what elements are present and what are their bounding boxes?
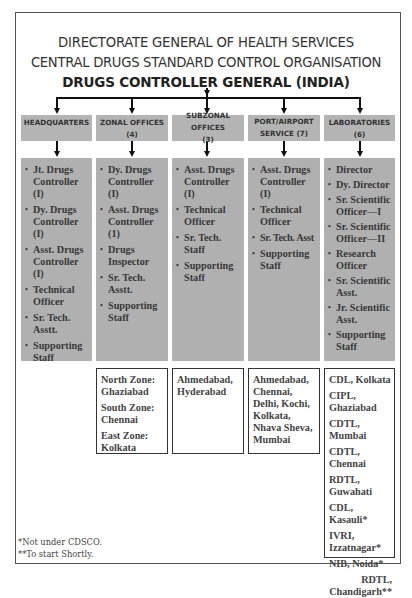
arrow-down-icon [357,108,363,114]
staff-item: Asst. Drugs Controller (I) [176,164,241,200]
staff-item: Supporting Staff [25,340,89,364]
location-city: Chennai, [253,386,315,398]
staff-item: Technical Officer [25,284,89,308]
node-label: HEADQUARTERS [24,117,89,129]
location-label: South Zone: [101,402,163,414]
locations-subzonal: Ahmedabad, Hyderabad [172,368,244,454]
staff-list-port: Asst. Drugs Controller (I) Technical Off… [248,158,320,361]
arrow-down-icon [281,151,287,157]
node-label: ZONAL OFFICES (4) [98,117,166,141]
staff-item: Sr. Scientific Officer—II [328,221,392,245]
locations-laboratories: CDL, Kolkata CIPL, Ghaziabad CDTL, Mumba… [324,368,395,558]
arrow-down-icon [281,108,287,114]
staff-list-laboratories: Director Dy. Director Sr. Scientific Off… [324,158,395,361]
staff-item: Sr. Tech. Asstt. [100,272,165,296]
node-label: PORT/AIRPORT SERVICE (7) [254,116,313,140]
staff-item: Supporting Staff [328,329,392,353]
staff-item: Asst. Drugs Controller (I) [25,244,89,280]
arrow-down-icon [54,108,60,114]
arrow-down-icon [204,151,210,157]
arrow-down-icon [204,90,210,96]
lab-location: CDL, Kasauli* [329,502,392,526]
lab-location: CIPL, Ghaziabad [329,390,392,414]
arrow-down-icon [357,151,363,157]
node-port-airport-service: PORT/AIRPORT SERVICE (7) [248,115,320,141]
lab-location: CDTL, Chennai [329,446,392,470]
staff-item: Supporting Staff [100,300,165,324]
arrow-down-icon [129,151,135,157]
locations-port: Ahmedabad, Chennai, Delhi, Kochi, Kolkat… [248,368,320,454]
arrow-down-icon [54,151,60,157]
location-city: Ghaziabad [101,386,163,398]
staff-item: Technical Officer [176,204,241,228]
location-city: Hyderabad [177,386,239,398]
staff-item: Sr. Tech. Asstt. [25,312,89,336]
staff-item: Asst. Drugs Controller (I) [252,164,317,200]
locations-zonal: North Zone: Ghaziabad South Zone: Chenna… [96,368,168,454]
node-label: LABORATORIES (6) [326,117,393,141]
lab-location: RDTL, Guwahati [329,474,392,498]
staff-item: Director [328,164,392,176]
staff-item: Technical Officer [252,204,317,228]
node-subzonal-offices: SUBZONAL OFFICES (3) [172,115,244,141]
staff-list-headquarters: Jt. Drugs Controller (I) Dy. Drugs Contr… [21,158,92,361]
location-city: Chennai [101,414,163,426]
connector-horizontal [56,97,360,99]
location-label: North Zone: [101,374,163,386]
staff-item: Sr. Scientific Asst. [328,275,392,299]
staff-item: Research Officer [328,248,392,272]
footnote-not-under-cdsco: *Not under CDSCO. [18,537,102,547]
lab-location: CDL, Kolkata [329,374,392,386]
staff-item: Supporting Staff [176,260,241,284]
location-city: Delhi, Kochi, [253,398,315,410]
staff-item: Sr. Tech. Asst [252,232,317,244]
staff-item: Sr. Tech. Staff [176,232,241,256]
staff-item: Jt. Drugs Controller (I) [25,164,89,200]
node-label: SUBZONAL OFFICES (3) [184,110,232,146]
lab-location: RDTL, Chandigarh** [329,574,392,598]
title-cdsco: CENTRAL DRUGS STANDARD CONTROL ORGANISAT… [0,55,412,70]
title-dghs: DIRECTORATE GENERAL OF HEALTH SERVICES [0,35,412,50]
node-zonal-offices: ZONAL OFFICES (4) [96,115,168,141]
node-laboratories: LABORATORIES (6) [324,115,395,141]
staff-item: Dy. Director [328,179,392,191]
staff-item: Sr. Scientific Officer—I [328,194,392,218]
location-city: Nhava Sheva, [253,422,315,434]
node-headquarters: HEADQUARTERS [21,115,92,141]
arrow-down-icon [129,108,135,114]
location-city: Kolkata [101,442,163,454]
footnote-to-start-shortly: **To start Shortly. [18,549,94,559]
staff-item: Drugs Inspector [100,244,165,268]
location-label: East Zone: [101,430,163,442]
location-city: Kolkata, [253,410,315,422]
staff-item: Dy. Drugs Controller (I) [100,164,165,200]
location-city: Mumbai [253,434,315,446]
staff-list-subzonal: Asst. Drugs Controller (I) Technical Off… [172,158,244,361]
location-city: Ahmedabad, [177,374,239,386]
staff-item: Asst. Drugs Controller (1) [100,204,165,240]
staff-list-zonal: Dy. Drugs Controller (I) Asst. Drugs Con… [96,158,168,361]
staff-item: Jr. Scientific Asst. [328,302,392,326]
staff-item: Dy. Drugs Controller (I) [25,204,89,240]
lab-location: CDTL, Mumbai [329,418,392,442]
location-city: Ahmedabad, [253,374,315,386]
lab-location: NIB, Noida* [329,558,392,570]
staff-item: Supporting Staff [252,248,317,272]
lab-location: IVRI, Izzatnagar* [329,530,392,554]
